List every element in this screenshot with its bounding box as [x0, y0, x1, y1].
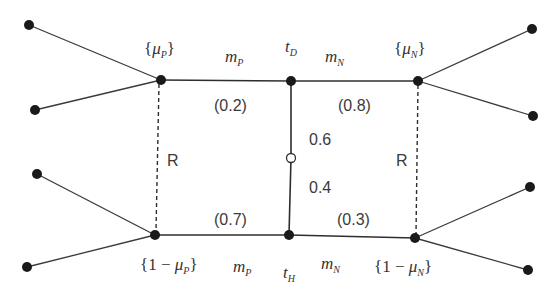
m-symbol: m — [233, 257, 245, 276]
belief-label-bottom-right: {1 − μN} — [374, 258, 432, 278]
subscript: D — [290, 47, 297, 58]
subscript: N — [417, 267, 424, 278]
subscript: H — [288, 273, 295, 284]
probability-bottom-left: (0.7) — [214, 212, 247, 228]
decision-node-top-left-icon — [156, 75, 166, 85]
signaling-game-diagram: {μP} mP tD mN {μN} (0.2) (0.8) 0.6 0.4 (… — [0, 0, 554, 294]
terminal-node-icon — [525, 182, 535, 192]
edge-bottom-left-to-terminal-4 — [27, 235, 155, 267]
brace-open-one-minus: {1 − — [140, 255, 175, 274]
subscript: P — [245, 267, 251, 278]
brace-open: { — [394, 39, 402, 58]
chance-node-open-circle-icon — [287, 154, 296, 163]
mu-symbol: μ — [152, 39, 161, 58]
info-set-label-right: R — [396, 153, 408, 169]
belief-label-top-right: {μN} — [394, 40, 426, 60]
edge-bottom-right-to-terminal-7 — [415, 187, 530, 238]
decision-node-top-mid-icon — [286, 76, 296, 86]
m-symbol: m — [321, 254, 333, 273]
info-set-label-left: R — [167, 153, 179, 169]
terminal-node-icon — [22, 262, 32, 272]
message-label-bottom-left: mP — [233, 258, 251, 278]
terminal-node-icon — [523, 265, 533, 275]
subscript: P — [237, 57, 243, 68]
nature-probability-down: 0.4 — [309, 180, 331, 196]
edge-top-left-to-terminal-1 — [29, 25, 161, 80]
brace-close: } — [424, 257, 432, 276]
probability-top-right: (0.8) — [338, 98, 371, 114]
probability-bottom-right: (0.3) — [337, 212, 370, 228]
decision-node-top-right-icon — [413, 76, 423, 86]
subscript: N — [337, 57, 344, 68]
info-set-right-dashed — [416, 85, 418, 234]
edge-bottom-right-message — [289, 235, 415, 238]
decision-node-bottom-right-icon — [410, 233, 420, 243]
brace-close: } — [189, 255, 197, 274]
edge-top-left-message — [161, 80, 291, 81]
mu-symbol: μ — [409, 257, 418, 276]
belief-label-bottom-left: {1 − μP} — [140, 256, 198, 276]
brace-close: } — [417, 39, 425, 58]
diagram-canvas — [0, 0, 554, 294]
edge-bottom-left-to-terminal-3 — [37, 174, 155, 235]
terminal-node-icon — [30, 105, 40, 115]
m-symbol: m — [325, 47, 337, 66]
terminal-node-icon — [528, 111, 538, 121]
mu-symbol: μ — [175, 255, 184, 274]
brace-open: { — [144, 39, 152, 58]
terminal-node-icon — [24, 20, 34, 30]
edge-top-right-to-terminal-5 — [418, 29, 532, 81]
decision-node-bottom-mid-icon — [284, 230, 294, 240]
edge-nature-down — [289, 158, 291, 235]
belief-label-top-left: {μP} — [144, 40, 175, 60]
probability-top-left: (0.2) — [214, 98, 247, 114]
type-label-th: tH — [283, 264, 295, 284]
terminal-node-icon — [527, 24, 537, 34]
info-set-left-dashed — [156, 84, 159, 231]
message-label-top-left: mP — [225, 48, 243, 68]
decision-node-bottom-left-icon — [150, 230, 160, 240]
terminal-node-icon — [32, 169, 42, 179]
m-symbol: m — [225, 47, 237, 66]
type-label-td: tD — [285, 38, 297, 58]
subscript: N — [333, 264, 340, 275]
brace-open-one-minus: {1 − — [374, 257, 409, 276]
edge-top-right-to-terminal-6 — [418, 81, 533, 116]
brace-close: } — [167, 39, 175, 58]
edge-top-left-to-terminal-2 — [35, 80, 161, 110]
mu-symbol: μ — [402, 39, 411, 58]
nature-probability-up: 0.6 — [309, 132, 331, 148]
message-label-top-right: mN — [325, 48, 344, 68]
message-label-bottom-right: mN — [321, 255, 340, 275]
